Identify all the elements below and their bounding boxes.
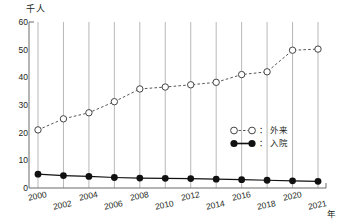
y-tick-label: 30 (8, 100, 28, 110)
data-point (136, 175, 143, 182)
data-point (60, 172, 67, 179)
data-point (187, 175, 194, 182)
line-chart: 千人 ： 外来 ： 入院 6050403020100 2000200220042… (0, 0, 342, 223)
data-point (137, 86, 143, 92)
filled-circle-marker-icon (228, 138, 258, 149)
data-point (213, 79, 219, 85)
data-point (86, 173, 93, 180)
y-tick-label: 0 (8, 183, 28, 193)
data-point (162, 84, 168, 90)
data-point (238, 176, 245, 183)
data-point (238, 71, 244, 77)
y-tick-label: 60 (8, 17, 28, 27)
legend-label-outpatient: 外来 (270, 124, 288, 137)
data-point (264, 69, 270, 75)
series-line-outpatient (38, 49, 318, 130)
data-point (315, 46, 321, 52)
y-tick-label: 50 (8, 45, 28, 55)
data-point (35, 171, 42, 178)
data-point (289, 177, 296, 184)
chart-legend: ： 外来 ： 入院 (228, 124, 288, 150)
data-point (264, 177, 271, 184)
data-point (162, 175, 169, 182)
plot-area (0, 0, 342, 223)
data-point (86, 110, 92, 116)
x-axis-unit-label: 年 (327, 207, 336, 219)
legend-colon: ： (259, 137, 268, 150)
legend-item-inpatient: ： 入院 (228, 137, 288, 150)
y-tick-label: 10 (8, 155, 28, 165)
data-point (35, 127, 41, 133)
data-point (188, 82, 194, 88)
data-point (111, 174, 118, 181)
series-line-inpatient (38, 174, 318, 181)
y-tick-label: 40 (8, 72, 28, 82)
legend-colon: ： (259, 124, 268, 137)
open-circle-marker-icon (228, 125, 258, 136)
y-tick-label: 20 (8, 128, 28, 138)
legend-item-outpatient: ： 外来 (228, 124, 288, 137)
data-point (111, 98, 117, 104)
data-point (289, 47, 295, 53)
data-point (60, 116, 66, 122)
data-point (315, 178, 322, 185)
data-point (213, 176, 220, 183)
legend-label-inpatient: 入院 (270, 137, 288, 150)
